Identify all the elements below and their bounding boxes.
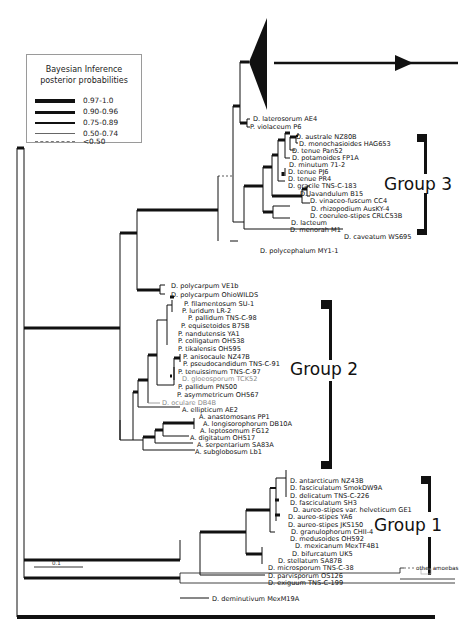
group-2-label: Group 2	[290, 359, 358, 379]
taxon-label: D. fasciculatum SmokDW9A	[290, 484, 383, 492]
taxon-label: D. caveatum WS695	[344, 233, 412, 241]
taxon-label: D. gracile TNS-C-183	[288, 182, 357, 190]
taxon-label: D. vinaceo-fuscum CC4	[310, 197, 387, 205]
taxon-label: D. exiguum TNS-C-199	[268, 579, 343, 587]
taxon-label: P. tikalensis OH595	[178, 345, 241, 353]
phylogenetic-tree: Group 3 Group 2 Group 1 0.1 other amoeba…	[0, 0, 475, 639]
taxon-label: D. polycephalum MY1-1	[260, 247, 338, 255]
taxon-label: D. polycarpum VE1b	[171, 282, 239, 290]
group-1-taxa: D. antarcticum NZ43B D. fasciculatum Smo…	[212, 477, 412, 603]
arrow-head-icon	[395, 55, 413, 71]
taxon-label: P. pallidum PN500	[178, 383, 237, 391]
taxon-label: P. asymmetricum OH567	[177, 391, 259, 399]
taxon-label: P. equisetoides B75B	[181, 322, 250, 330]
taxon-label: D. deminutivum MexM19A	[212, 595, 300, 603]
taxon-label: P. colligatum OH538	[178, 337, 245, 345]
taxon-label: D. gloeosporum TCK52	[182, 375, 257, 383]
taxon-label: D. laterosorum AE4	[253, 115, 317, 123]
taxon-label: P. pseudocandidum TNS-C-91	[183, 360, 280, 368]
taxon-label: D. microsporum TNS-C-38	[268, 564, 354, 572]
taxon-label: D. polycarpum OhioWILDS	[171, 291, 258, 299]
collapsed-clade-triangle	[249, 18, 267, 110]
group-1-label: Group 1	[374, 515, 442, 535]
taxon-label: P. pallidum TNS-C-98	[188, 314, 257, 322]
taxon-label: D. menorah M1	[290, 226, 341, 234]
group-2-taxa: D. polycarpum VE1b D. polycarpum OhioWIL…	[162, 282, 293, 456]
taxon-label: D. mexicanum MexTF4B1	[295, 542, 379, 550]
taxon-label: P. violaceum P6	[250, 123, 301, 131]
taxon-label: D. aureo-stipes YA6	[288, 513, 353, 521]
scale-bar-label: 0.1	[52, 560, 61, 566]
taxon-label: A. subglobosum Lb1	[195, 448, 262, 456]
outgroup-label: other amoebas	[416, 565, 458, 571]
group-3-label: Group 3	[384, 174, 452, 194]
